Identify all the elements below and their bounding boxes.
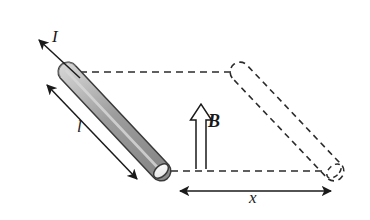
length-label: l [77,118,82,135]
physics-diagram-figure: I l B x [0,0,370,220]
current-label: I [52,28,58,45]
magnetic-field-label: B [208,112,220,130]
conducting-rod-dashed [230,62,344,181]
displacement-label: x [249,189,257,206]
conducting-rod-solid [58,62,171,181]
